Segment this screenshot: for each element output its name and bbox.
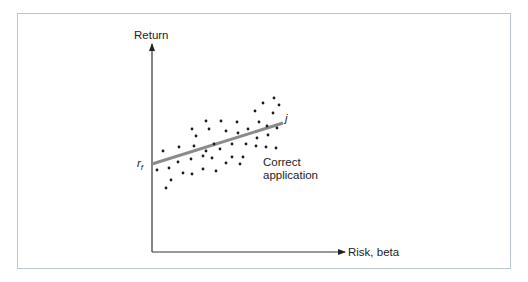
data-point — [258, 121, 261, 124]
annotation-line-2: application — [263, 169, 318, 182]
intercept-label: rf — [137, 157, 143, 174]
data-point — [245, 143, 248, 146]
data-point — [231, 156, 234, 159]
data-point — [262, 102, 265, 105]
data-point — [247, 128, 250, 131]
data-point — [225, 130, 228, 133]
data-point — [255, 145, 258, 148]
annotation-correct-application: Correct application — [263, 156, 318, 182]
data-point — [275, 147, 278, 150]
data-point — [236, 121, 239, 124]
data-point — [266, 125, 269, 128]
annotation-line-1: Correct — [263, 156, 318, 169]
data-point — [162, 150, 165, 153]
data-point — [191, 128, 194, 131]
line-label-j: j — [285, 112, 288, 125]
data-point — [177, 161, 180, 164]
data-point — [231, 143, 234, 146]
data-point — [215, 170, 218, 173]
data-point — [208, 128, 211, 131]
data-point — [165, 187, 168, 190]
data-point — [237, 132, 240, 135]
data-point — [265, 146, 268, 149]
data-point — [178, 146, 181, 149]
data-point — [191, 173, 194, 176]
data-point — [219, 148, 222, 151]
data-point — [242, 156, 245, 159]
data-point — [267, 134, 270, 137]
data-point — [170, 179, 173, 182]
data-point — [278, 104, 281, 107]
data-point — [256, 137, 259, 140]
data-point — [272, 112, 275, 115]
data-point — [190, 158, 193, 161]
data-point — [273, 97, 276, 100]
data-point — [254, 110, 257, 113]
x-axis-label: Risk, beta — [348, 246, 399, 259]
data-point — [205, 150, 208, 153]
data-point — [182, 172, 185, 175]
data-point — [211, 157, 214, 160]
data-point — [213, 143, 216, 146]
data-point — [202, 168, 205, 171]
data-point — [168, 167, 171, 170]
data-point — [202, 155, 205, 158]
data-point — [156, 169, 159, 172]
scatter-plot — [0, 0, 528, 282]
data-point — [195, 135, 198, 138]
data-point — [225, 162, 228, 165]
data-point — [276, 127, 279, 130]
data-point — [205, 120, 208, 123]
data-point — [193, 145, 196, 148]
intercept-label-sub: f — [141, 163, 143, 172]
data-point — [220, 120, 223, 123]
y-axis-label: Return — [134, 29, 169, 42]
data-point — [239, 163, 242, 166]
